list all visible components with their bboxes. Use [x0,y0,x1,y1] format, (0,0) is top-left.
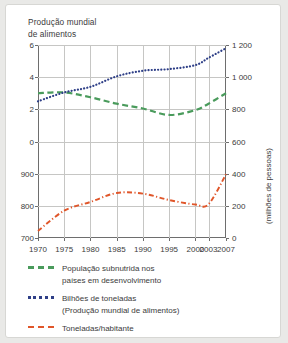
y-axis-right-label: 600 [232,137,245,146]
y-axis-left-label: 4 [14,73,34,82]
axis-tick [169,238,170,241]
axis-tick [38,238,39,241]
y-axis-right-label: 1 200 [232,41,252,50]
y-axis-left-label: 800 [10,201,34,210]
y-axis-left-label: 700 [10,234,34,243]
axis-tick [64,238,65,241]
right-axis-title: (milhões de pessoas) [264,148,273,224]
series-line-undernourished [38,92,226,115]
axis-tick [90,238,91,241]
series-lines [38,45,226,238]
legend-item-undernourished: População subnutrida nos países em desen… [28,263,263,286]
y-axis-left-label: 900 [10,169,34,178]
axis-tick [226,109,229,110]
axis-tick [209,238,210,241]
legend-label: População subnutrida nos países em desen… [62,263,263,286]
y-axis-left-label: 2 [14,105,34,114]
legend-marker-dashed-green-icon [28,266,54,269]
legend-label: Toneladas/habitante [62,323,263,335]
legend-marker-dash-dot-orange-icon [28,326,54,328]
axis-tick [226,77,229,78]
chart-figure: Produção mundial de alimentos 0246700800… [5,4,281,338]
x-axis-label: 2003 [200,245,218,254]
axis-tick [226,206,229,207]
y-axis-left-label: 6 [14,41,34,50]
x-axis-label: 1995 [160,245,178,254]
legend-marker-dotted-blue-icon [28,296,54,299]
y-axis-left-label: 0 [14,137,34,146]
axis-tick [143,238,144,241]
x-axis-label: 1990 [134,245,152,254]
y-axis-right-label: 800 [232,105,245,114]
x-axis-label: 1975 [55,245,73,254]
axis-tick [226,45,229,46]
y-axis-right-label: 1 000 [232,73,252,82]
chart-legend: População subnutrida nos países em desen… [28,263,263,342]
axis-tick [226,238,227,241]
legend-label: Bilhões de toneladas (Produção mundial d… [62,293,263,316]
x-axis-label: 1985 [108,245,126,254]
axis-tick [226,174,229,175]
legend-item-per-capita: Toneladas/habitante [28,323,263,335]
chart-title: Produção mundial de alimentos [28,16,96,40]
x-axis-label: 2007 [217,245,235,254]
legend-item-production: Bilhões de toneladas (Produção mundial d… [28,293,263,316]
y-axis-right-label: 400 [232,169,245,178]
axis-tick [195,238,196,241]
series-line-production [38,48,226,101]
plot-area [38,45,226,238]
x-axis-label: 1980 [82,245,100,254]
series-line-per-capita [38,174,226,231]
x-axis-label: 1970 [29,245,47,254]
axis-tick [226,142,229,143]
axis-tick [117,238,118,241]
y-axis-right-label: 200 [232,201,245,210]
y-axis-right-label: 0 [232,234,236,243]
